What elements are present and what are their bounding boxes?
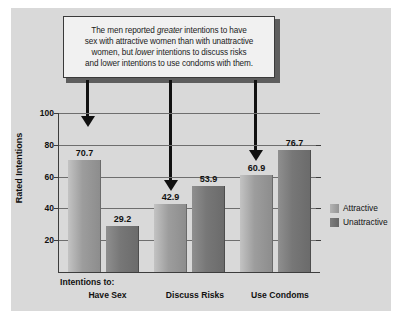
legend-swatch-unattractive (330, 218, 339, 227)
bar-have-sex-attractive[interactable] (68, 160, 101, 272)
plot-area: 70.7 29.2 42.9 53.9 60.9 76.7 (58, 113, 320, 272)
chart-legend: Attractive Unattractive (330, 203, 392, 231)
callout-emphasis-greater: greater (157, 26, 182, 35)
y-axis-label: Rated Intentions (14, 118, 24, 218)
y-tick-right-80 (316, 145, 321, 146)
y-tick-label-40: 40 (30, 203, 54, 213)
bar-value-have-sex-unattractive: 29.2 (106, 214, 139, 224)
bar-value-discuss-risks-unattractive: 53.9 (192, 174, 225, 184)
bar-value-discuss-risks-attractive: 42.9 (154, 192, 187, 202)
y-axis-line (58, 113, 59, 273)
legend-item-unattractive[interactable]: Unattractive (330, 217, 392, 227)
y-tick-label-20: 20 (30, 235, 54, 245)
x-category-use-condoms: Use Condoms (241, 290, 319, 300)
y-tick-right-40 (316, 208, 321, 209)
callout-box: The men reported greater intentions to h… (63, 16, 275, 78)
bar-use-condoms-unattractive[interactable] (278, 150, 311, 272)
legend-label-attractive: Attractive (343, 203, 378, 213)
bar-value-use-condoms-attractive: 60.9 (240, 163, 273, 173)
callout-line3-b: intentions to discuss risks (154, 48, 246, 57)
legend-item-attractive[interactable]: Attractive (330, 203, 392, 213)
y-tick-right-60 (316, 177, 321, 178)
x-axis-line (58, 272, 320, 273)
y-tick-label-100: 100 (30, 108, 54, 118)
callout-line2: sex with attractive women than with unat… (85, 37, 254, 46)
y-tick-right-20 (316, 240, 321, 241)
callout-line3-a: women, but (92, 48, 136, 57)
gridline-100 (58, 113, 320, 114)
callout-text: The men reported greater intentions to h… (80, 25, 259, 70)
callout-emphasis-lower: lower (135, 48, 154, 57)
y-tick-label-80: 80 (30, 140, 54, 150)
bar-value-have-sex-attractive: 70.7 (68, 148, 101, 158)
bar-have-sex-unattractive[interactable] (106, 226, 139, 272)
y-axis-tick-labels: 100 80 60 40 20 (24, 113, 54, 272)
x-category-have-sex: Have Sex (70, 290, 145, 300)
callout-line1-a: The men reported (91, 26, 157, 35)
legend-label-unattractive: Unattractive (343, 217, 388, 227)
bar-use-condoms-attractive[interactable] (240, 175, 273, 272)
x-category-discuss-risks: Discuss Risks (155, 290, 235, 300)
bar-discuss-risks-unattractive[interactable] (192, 186, 225, 272)
callout-line4: and lower intentions to use condoms with… (85, 59, 253, 68)
bar-value-use-condoms-unattractive: 76.7 (278, 138, 311, 148)
y-tick-label-60: 60 (30, 172, 54, 182)
bar-discuss-risks-attractive[interactable] (154, 204, 187, 272)
callout-line1-b: intentions to have (182, 26, 247, 35)
chart-figure: The men reported greater intentions to h… (0, 0, 399, 321)
x-axis-prefix-label: Intentions to: (60, 277, 114, 287)
legend-swatch-attractive (330, 204, 339, 213)
